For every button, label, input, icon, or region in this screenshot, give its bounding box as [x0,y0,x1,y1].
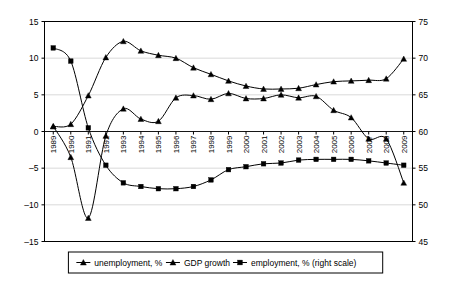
data-point-marker [138,48,144,53]
category-label: 1993 [119,135,128,153]
data-point-marker [68,154,74,159]
left-axis-tick-label: –10 [24,200,38,210]
data-point-marker [174,186,179,191]
chart-svg: –15–10–5051015 45505560657075 1989199019… [0,0,451,289]
series-line [53,41,403,127]
category-label: 2003 [295,135,304,153]
right-axis-tick-label: 65 [419,90,429,100]
series-2 [50,90,406,220]
category-label: 1998 [207,135,216,153]
data-point-marker [314,157,319,162]
data-point-marker [51,46,56,51]
data-point-marker [226,167,231,172]
series-1 [50,38,406,128]
data-point-marker [279,161,284,166]
data-point-marker [156,186,161,191]
data-point-marker [191,184,196,189]
right-axis: 45505560657075 [413,17,429,247]
data-point-marker [209,178,214,183]
legend-item[interactable]: employment, % (right scale) [233,258,357,268]
left-axis-tick-label: –15 [24,237,38,247]
category-label: 1994 [137,135,146,153]
category-label: 1999 [225,135,234,153]
category-label: 2006 [347,135,356,153]
data-point-marker [103,55,109,60]
data-point-marker [68,59,73,64]
data-point-marker [366,159,371,164]
series-group [50,38,406,220]
data-point-marker [86,126,91,131]
data-point-marker [173,95,179,100]
data-point-marker [261,161,266,166]
data-point-marker [244,164,249,169]
right-axis-tick-label: 50 [419,200,429,210]
data-point-marker [401,56,407,61]
legend-label: employment, % (right scale) [251,258,357,268]
category-axis-labels: 1989199019911992199319941995199619971998… [49,132,408,154]
data-point-marker [104,163,109,168]
category-label: 1995 [154,135,163,153]
category-label: 2005 [330,135,339,153]
data-point-marker [296,158,301,163]
category-label: 2001 [260,135,269,153]
category-label: 2000 [242,135,251,153]
category-label: 2004 [312,135,321,153]
data-point-marker [139,184,144,189]
left-axis-tick-label: 0 [34,127,39,137]
right-axis-tick-label: 75 [419,17,429,27]
category-label: 1997 [189,135,198,153]
data-point-marker [191,65,197,70]
data-point-marker [85,93,91,98]
legend-label: GDP growth [184,258,230,268]
category-label: 1989 [49,135,58,153]
data-point-marker [384,161,389,166]
data-point-marker [331,157,336,162]
right-axis-tick-label: 45 [419,237,429,247]
left-axis: –15–10–5051015 [24,17,44,247]
data-point-marker [331,107,337,112]
category-label: 2002 [277,135,286,153]
data-point-marker [121,181,126,186]
left-axis-tick-label: 10 [29,53,39,63]
series-line [53,93,403,218]
data-point-marker [349,157,354,162]
data-point-marker [348,115,354,120]
right-axis-tick-label: 70 [419,53,429,63]
right-axis-tick-label: 60 [419,127,429,137]
data-point-marker [401,180,407,185]
left-axis-tick-label: –5 [29,163,39,173]
category-label: 1996 [172,135,181,153]
data-point-marker [138,116,144,121]
legend-marker-square [238,260,243,265]
left-axis-tick-label: 5 [34,90,39,100]
chart-legend: unemployment, %GDP growthemployment, % (… [68,252,382,273]
data-point-marker [401,163,406,168]
left-axis-tick-label: 15 [29,17,39,27]
right-axis-tick-label: 55 [419,163,429,173]
legend-label: unemployment, % [94,258,162,268]
chart-container: –15–10–5051015 45505560657075 1989199019… [0,0,451,289]
category-label: 2009 [400,135,409,153]
